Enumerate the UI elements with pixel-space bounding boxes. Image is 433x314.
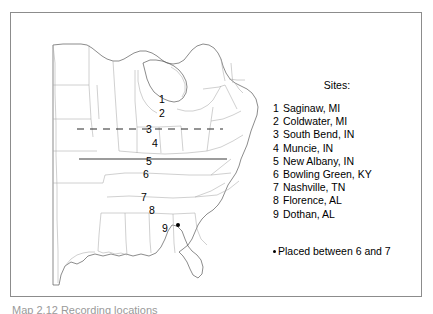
map-panel: 1 2 3 4 5 6 7 8 9: [25, 23, 260, 291]
legend-item-1: 1Saginaw, MI: [273, 102, 423, 115]
state-borders-ohio-valley: [119, 107, 213, 154]
legend-name-3: South Bend, IN: [283, 128, 354, 140]
legend-number-5: 5: [273, 155, 283, 168]
state-borders-new-england: [221, 59, 245, 93]
map-site-label-7: 7: [141, 192, 147, 203]
figure-caption-partial: Map 2.12 Recording locations: [12, 305, 202, 314]
legend-item-3: 3South Bend, IN: [273, 128, 423, 141]
map-site-label-9: 9: [162, 223, 168, 234]
lake-huron-line: [171, 67, 185, 97]
legend-item-6: 6Bowling Green, KY: [273, 168, 423, 181]
state-border-west-cut: [53, 45, 58, 283]
map-site-label-2: 2: [159, 108, 165, 119]
legend-name-2: Coldwater, MI: [283, 115, 347, 127]
state-borders-mid-atlantic: [207, 85, 243, 151]
legend-panel: Sites: 1Saginaw, MI 2Coldwater, MI 3Sout…: [273, 79, 423, 257]
legend-number-4: 4: [273, 142, 283, 155]
legend-item-7: 7Nashville, TN: [273, 181, 423, 194]
map-site-label-8: 8: [149, 205, 155, 216]
state-borders-deep-south: [98, 213, 207, 255]
legend-note: Placed between 6 and 7: [273, 245, 423, 257]
lake-erie-line: [177, 100, 213, 111]
legend-name-8: Florence, AL: [283, 194, 342, 206]
legend-number-2: 2: [273, 115, 283, 128]
legend-item-5: 5New Albany, IN: [273, 155, 423, 168]
map-site-label-5: 5: [146, 156, 152, 167]
legend-note-text: Placed between 6 and 7: [278, 245, 391, 257]
us-eastern-states-map: [25, 23, 260, 291]
legend-site-list: 1Saginaw, MI 2Coldwater, MI 3South Bend,…: [273, 102, 423, 221]
map-site-label-6: 6: [143, 169, 149, 180]
map-site-label-1: 1: [159, 94, 165, 105]
map-site-label-4: 4: [152, 138, 158, 149]
legend-item-9: 9Dothan, AL: [273, 208, 423, 221]
map-site-label-3: 3: [146, 124, 152, 135]
placed-dot-marker: [176, 223, 180, 227]
figure-frame: 1 2 3 4 5 6 7 8 9 Sites: 1Saginaw, MI 2C…: [10, 12, 422, 297]
legend-number-3: 3: [273, 128, 283, 141]
map-coastline-outline: [53, 44, 258, 285]
legend-number-7: 7: [273, 181, 283, 194]
legend-number-1: 1: [273, 102, 283, 115]
legend-name-5: New Albany, IN: [283, 155, 354, 167]
legend-name-6: Bowling Green, KY: [283, 168, 372, 180]
lake-michigan-line: [138, 70, 157, 113]
legend-name-4: Muncie, IN: [283, 142, 333, 154]
legend-name-7: Nashville, TN: [283, 181, 345, 193]
legend-name-1: Saginaw, MI: [283, 102, 340, 114]
state-borders-gulf-coast: [65, 251, 127, 266]
note-bullet-icon: [273, 250, 276, 253]
legend-item-4: 4Muncie, IN: [273, 142, 423, 155]
legend-number-9: 9: [273, 208, 283, 221]
legend-number-8: 8: [273, 194, 283, 207]
state-borders-kentucky-tennessee: [101, 173, 231, 214]
legend-number-6: 6: [273, 168, 283, 181]
legend-name-9: Dothan, AL: [283, 208, 335, 220]
state-borders-upper-midwest: [53, 45, 137, 183]
legend-item-8: 8Florence, AL: [273, 194, 423, 207]
legend-title: Sites:: [273, 79, 423, 91]
lake-ontario-line: [203, 85, 225, 89]
legend-item-2: 2Coldwater, MI: [273, 115, 423, 128]
great-lakes-outline: [143, 60, 187, 102]
